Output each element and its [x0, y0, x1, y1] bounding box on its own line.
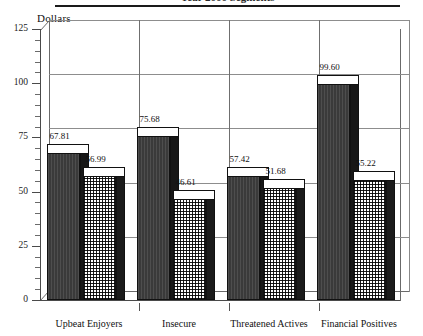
y-tick-minor — [35, 105, 40, 106]
bar-side-face — [296, 179, 305, 300]
y-tick-minor — [35, 235, 40, 236]
bar-series2-upbeat-enjoyers[interactable] — [83, 167, 125, 300]
bar-value-label: 46.61 — [176, 177, 196, 187]
bar-side-face — [386, 171, 395, 300]
y-axis-spine — [40, 29, 41, 301]
y-tick-minor — [35, 148, 40, 149]
bar-value-label: 75.68 — [140, 114, 160, 124]
plot-frame-right-front — [400, 29, 401, 301]
category-label: Financial Positives — [299, 318, 419, 329]
bar-front-face — [173, 199, 206, 300]
plot-frame-right-back — [409, 20, 410, 292]
y-tick-minor — [35, 159, 40, 160]
bar-series2-threatened-actives[interactable] — [263, 179, 305, 300]
bar-front-face — [263, 188, 296, 300]
y-tick-label: 50 — [2, 186, 28, 196]
bar-series2-insecure[interactable] — [173, 190, 215, 300]
y-tick-minor — [35, 51, 40, 52]
category-axis-tick — [229, 303, 230, 311]
y-tick-label: 75 — [2, 131, 28, 141]
y-tick-minor — [35, 62, 40, 63]
category-axis-tick — [319, 303, 320, 311]
y-tick-minor — [35, 116, 40, 117]
axis-wall-top-bevel — [40, 20, 54, 31]
y-tick-minor — [35, 202, 40, 203]
bar-front-face — [317, 84, 350, 300]
y-tick-minor — [35, 72, 40, 73]
y-tick-minor — [35, 40, 40, 41]
bar-series2-financial-positives[interactable] — [353, 171, 395, 300]
y-tick-label: 100 — [2, 77, 28, 87]
y-tick-major — [32, 192, 40, 193]
bar-front-face — [83, 176, 116, 300]
bar-front-face — [353, 180, 386, 300]
bar-value-label: 57.42 — [230, 154, 250, 164]
y-tick-label: 125 — [2, 23, 28, 33]
bar-front-face — [227, 176, 260, 300]
bar-value-label: 51.68 — [266, 166, 286, 176]
category-axis-tick — [139, 303, 140, 311]
y-tick-minor — [35, 289, 40, 290]
y-tick-minor — [35, 257, 40, 258]
bar-side-face — [116, 167, 125, 300]
y-tick-major — [32, 29, 40, 30]
bar-value-label: 55.22 — [356, 158, 376, 168]
x-axis-baseline-front — [40, 300, 400, 301]
y-tick-label: 25 — [2, 240, 28, 250]
y-tick-major — [32, 246, 40, 247]
y-tick-major — [32, 83, 40, 84]
chart-plot-area: 0255075100125 67.8156.9975.6846.6157.425… — [0, 0, 423, 336]
y-tick-minor — [35, 278, 40, 279]
y-tick-minor — [35, 170, 40, 171]
bar-value-label: 67.81 — [50, 131, 70, 141]
y-tick-major — [32, 137, 40, 138]
bar-front-face — [47, 153, 80, 300]
y-tick-minor — [35, 127, 40, 128]
y-tick-minor — [35, 181, 40, 182]
y-tick-minor — [35, 213, 40, 214]
bar-value-label: 99.60 — [320, 62, 340, 72]
y-tick-minor — [35, 94, 40, 95]
y-tick-major — [32, 300, 40, 301]
y-tick-label: 0 — [2, 294, 28, 304]
bar-front-face — [137, 136, 170, 300]
y-tick-minor — [35, 224, 40, 225]
bar-value-label: 56.99 — [86, 154, 106, 164]
bar-side-face — [206, 190, 215, 300]
y-tick-minor — [35, 267, 40, 268]
